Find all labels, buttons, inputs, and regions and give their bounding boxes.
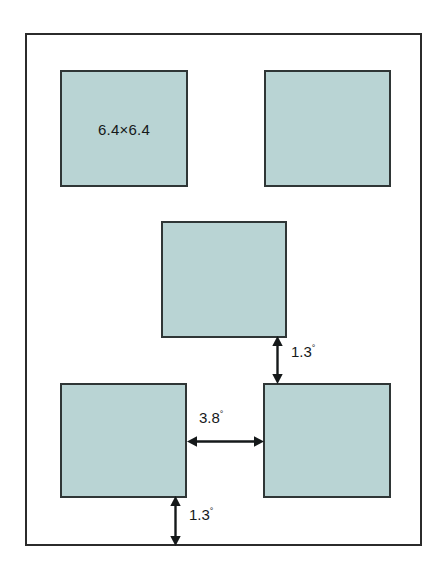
middle-center-square	[161, 221, 287, 338]
degree-symbol-icon: °	[210, 506, 214, 516]
degree-symbol-icon: °	[312, 343, 316, 353]
square-size-label: 6.4×6.4	[62, 120, 186, 137]
horizontal-gap-arrow	[187, 433, 264, 450]
figure-root: 6.4×6.4 1.3° 3.8° 1.3°	[0, 0, 447, 574]
bottom-left-square	[60, 383, 187, 498]
horizontal-gap-label: 3.8°	[199, 409, 223, 426]
vertical-gap-upper-arrow	[269, 336, 286, 384]
bottom-right-square	[263, 383, 391, 498]
vertical-gap-lower-value: 1.3	[189, 506, 210, 523]
top-right-square	[264, 70, 391, 187]
vertical-gap-lower-label: 1.3°	[189, 506, 213, 523]
top-left-square: 6.4×6.4	[60, 70, 188, 187]
vertical-gap-upper-label: 1.3°	[291, 343, 315, 360]
horizontal-gap-value: 3.8	[199, 409, 220, 426]
vertical-gap-lower-arrow	[167, 496, 184, 546]
degree-symbol-icon: °	[220, 409, 224, 419]
vertical-gap-upper-value: 1.3	[291, 343, 312, 360]
